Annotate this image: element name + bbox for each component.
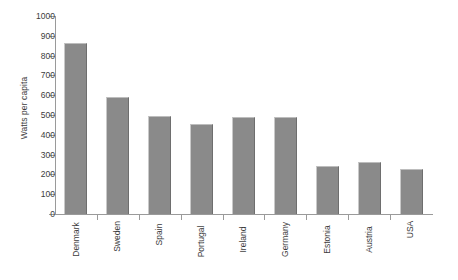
x-axis-category-label: Austria [348,222,390,264]
x-axis-category-label-text: Spain [155,224,164,246]
y-axis-tick-label: 500 [11,111,55,120]
x-axis-category-label-text: Portugal [197,226,206,258]
x-axis-category-label-text: USA [407,221,416,238]
x-axis-category-label: Portugal [181,222,223,268]
plot-area [55,16,432,214]
y-axis-tick-label: 0 [11,210,55,219]
bar [400,169,423,214]
x-axis-tick [264,215,265,220]
x-axis-category-label-text: Germany [281,222,290,257]
x-axis-category-label-text: Ireland [239,226,248,252]
bar [190,124,213,214]
x-axis-category-label: Sweden [97,222,139,259]
x-axis-category-label: Spain [139,222,181,254]
y-axis-tick-label: 800 [11,52,55,61]
x-axis-tick [348,215,349,220]
x-axis-tick [390,215,391,220]
y-axis-tick-label: 700 [11,71,55,80]
y-axis-tick-label: 400 [11,131,55,140]
bar [274,117,297,214]
y-axis-tick-label: 300 [11,151,55,160]
x-axis-tick [139,215,140,220]
x-axis-category-label: Denmark [55,222,97,264]
x-axis-category-label-text: Estonia [323,225,332,253]
y-axis-tick-label: 200 [11,170,55,179]
x-axis-tick [306,215,307,220]
y-axis-ticks: 01002003004005006007008009001000 [0,0,55,280]
x-axis-tick [181,215,182,220]
y-axis-tick-label: 100 [11,190,55,199]
x-axis-tick [223,215,224,220]
bar [64,43,87,214]
bar [316,166,339,214]
x-axis-category-label: Ireland [223,222,265,264]
x-axis-category-label: USA [390,222,432,244]
x-axis-tick [97,215,98,220]
x-axis-category-label: Germany [264,222,306,264]
x-axis-line [55,214,433,215]
bar-chart-figure: Watts per capita 01002003004005006007008… [0,0,458,280]
bar [148,116,171,214]
x-axis-category-label: Estonia [306,222,348,264]
x-axis-category-label-text: Sweden [113,222,122,253]
x-axis-category-label-text: Austria [365,226,374,252]
bar [358,162,381,214]
y-axis-tick-label: 1000 [11,12,55,21]
bar [232,117,255,214]
bar [106,97,129,214]
y-axis-tick-label: 600 [11,91,55,100]
y-axis-tick-label: 900 [11,32,55,41]
x-axis-category-label-text: Denmark [71,222,80,256]
